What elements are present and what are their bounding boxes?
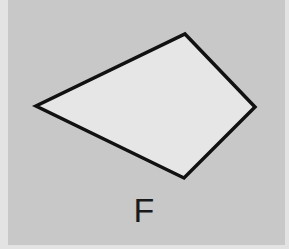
- figure-frame: F: [0, 0, 289, 249]
- figure-label: F: [128, 193, 160, 227]
- quadrilateral-shape: [36, 34, 255, 178]
